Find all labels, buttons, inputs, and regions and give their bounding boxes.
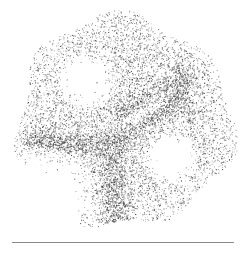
stipple-figure (0, 0, 247, 255)
horizontal-rule (12, 242, 234, 243)
